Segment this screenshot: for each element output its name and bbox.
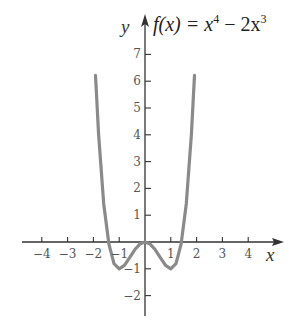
x-tick-label: −4 (33, 247, 51, 261)
title-mid: − 2x (219, 13, 260, 35)
y-axis-label: y (119, 16, 130, 37)
y-tick-label: 1 (133, 208, 141, 222)
title-lhs: f(x) = x (153, 13, 213, 36)
axes (22, 14, 284, 316)
function-graph: −4−3−2−11234−2−11234567 y x f(x) = x4 − … (0, 0, 306, 331)
x-axis-label: x (265, 244, 275, 265)
x-tick-label: 4 (244, 247, 252, 261)
y-tick-label: −2 (123, 289, 141, 303)
y-tick-label: 4 (133, 128, 141, 142)
title-exp2: 3 (260, 12, 266, 26)
y-tick-label: 7 (133, 47, 141, 61)
y-tick-label: 2 (133, 181, 141, 195)
function-title: f(x) = x4 − 2x3 (153, 12, 266, 36)
labels: −4−3−2−11234−2−11234567 (33, 47, 252, 302)
x-tick-label: 1 (167, 247, 175, 261)
x-tick-label: −2 (85, 247, 103, 261)
y-tick-label: 3 (133, 155, 141, 169)
x-tick-label: 3 (219, 247, 227, 261)
x-tick-label: −1 (110, 247, 128, 261)
y-tick-label: 5 (133, 101, 141, 115)
y-tick-label: −1 (123, 262, 141, 276)
x-tick-label: 2 (193, 247, 201, 261)
y-tick-label: 6 (133, 74, 141, 88)
x-tick-label: −3 (59, 247, 77, 261)
